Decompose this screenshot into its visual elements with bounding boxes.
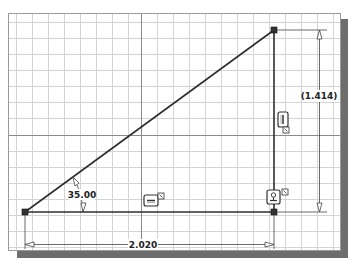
vertical-constraint-icon[interactable] bbox=[278, 112, 289, 133]
sketch-point-origin[interactable] bbox=[22, 209, 28, 215]
sketch-point-top[interactable] bbox=[271, 27, 277, 33]
dimension-vertical-label[interactable]: (1.414) bbox=[301, 91, 338, 101]
sketch-axes bbox=[9, 14, 340, 250]
perpendicular-constraint-icon[interactable] bbox=[267, 189, 288, 204]
dimension-angle-label[interactable]: 35.00 bbox=[68, 190, 96, 200]
sketch-point-corner[interactable] bbox=[271, 209, 277, 215]
sketch-drawing[interactable]: 2.020 (1.414) 35.00 bbox=[0, 0, 356, 271]
sketch-grid bbox=[9, 14, 340, 250]
sketch-viewport[interactable]: 2.020 (1.414) 35.00 bbox=[0, 0, 356, 271]
triangle-sketch[interactable] bbox=[25, 30, 274, 212]
dimension-horizontal-label[interactable]: 2.020 bbox=[129, 240, 157, 250]
hypotenuse-line[interactable] bbox=[25, 30, 274, 212]
